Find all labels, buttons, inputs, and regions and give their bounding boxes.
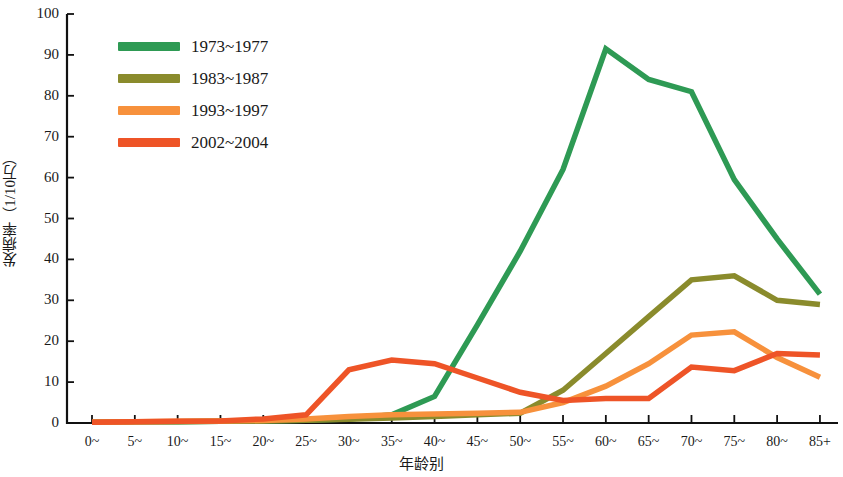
y-tick-label: 70 bbox=[25, 129, 59, 144]
x-tick-label: 75~ bbox=[712, 435, 756, 449]
y-tick-label: 0 bbox=[25, 415, 59, 430]
x-tick-label: 50~ bbox=[498, 435, 542, 449]
legend-item: 2002~2004 bbox=[118, 126, 328, 158]
x-tick-label: 55~ bbox=[541, 435, 585, 449]
x-tick-label: 85+ bbox=[798, 435, 842, 449]
x-tick-label: 65~ bbox=[627, 435, 671, 449]
chart-legend: 1973~19771983~19871993~19972002~2004 bbox=[118, 30, 328, 158]
x-tick-label: 80~ bbox=[755, 435, 799, 449]
x-tick-label: 10~ bbox=[156, 435, 200, 449]
x-tick-label: 60~ bbox=[584, 435, 628, 449]
y-tick-label: 50 bbox=[25, 211, 59, 226]
x-tick-label: 70~ bbox=[669, 435, 713, 449]
y-tick-label: 60 bbox=[25, 170, 59, 185]
chart-container: 1009080706050403020100 0~5~10~15~20~25~3… bbox=[0, 0, 843, 477]
y-tick-label: 80 bbox=[25, 88, 59, 103]
x-axis-title: 年龄别 bbox=[0, 452, 843, 473]
legend-item-label: 1993~1997 bbox=[191, 102, 268, 119]
legend-swatch-icon bbox=[118, 106, 180, 115]
legend-item-label: 1983~1987 bbox=[191, 70, 268, 87]
x-tick-label: 5~ bbox=[113, 435, 157, 449]
y-tick-label: 10 bbox=[25, 374, 59, 389]
y-tick-label: 40 bbox=[25, 251, 59, 266]
legend-item: 1973~1977 bbox=[118, 30, 328, 62]
legend-swatch-icon bbox=[118, 138, 180, 147]
y-axis-title: 发病率（1/10万） bbox=[2, 150, 28, 267]
x-tick-label: 45~ bbox=[455, 435, 499, 449]
legend-swatch-icon bbox=[118, 74, 180, 83]
x-tick-label: 30~ bbox=[327, 435, 371, 449]
legend-item-label: 2002~2004 bbox=[191, 134, 268, 151]
x-tick-label: 35~ bbox=[370, 435, 414, 449]
series-line bbox=[92, 332, 820, 422]
y-tick-label: 20 bbox=[25, 333, 59, 348]
legend-item-label: 1973~1977 bbox=[191, 38, 268, 55]
y-tick-label: 90 bbox=[25, 47, 59, 62]
legend-item: 1983~1987 bbox=[118, 62, 328, 94]
legend-swatch-icon bbox=[118, 42, 180, 51]
x-tick-label: 25~ bbox=[284, 435, 328, 449]
series-line bbox=[92, 276, 820, 422]
x-tick-label: 20~ bbox=[241, 435, 285, 449]
legend-item: 1993~1997 bbox=[118, 94, 328, 126]
x-tick-label: 15~ bbox=[198, 435, 242, 449]
y-tick-label: 100 bbox=[25, 6, 59, 21]
x-tick-label: 40~ bbox=[413, 435, 457, 449]
y-tick-label: 30 bbox=[25, 292, 59, 307]
x-tick-label: 0~ bbox=[70, 435, 114, 449]
